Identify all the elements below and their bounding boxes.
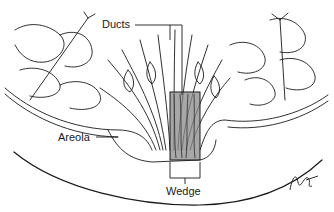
anatomy-illustration: Ducts Areola Wedge JKG — [0, 0, 334, 212]
ducts-label: Ducts — [102, 19, 130, 30]
areola-label: Areola — [58, 132, 90, 143]
illustration-drawing — [0, 0, 334, 212]
wedge-label: Wedge — [166, 186, 201, 197]
